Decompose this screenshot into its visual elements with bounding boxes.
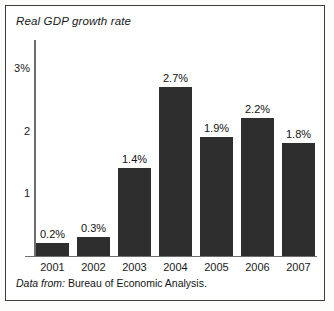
bar-2003[interactable]: [118, 168, 151, 256]
bar-2005[interactable]: [200, 137, 233, 256]
bar-2002[interactable]: [77, 237, 110, 256]
bar-2006[interactable]: [241, 118, 274, 256]
bar-value-label-2007: 1.8%: [275, 128, 323, 140]
bar-2007[interactable]: [282, 143, 315, 256]
y-tick-label: 3%: [0, 62, 30, 74]
source-note-body: Bureau of Economic Analysis.: [65, 277, 207, 289]
bar-2004[interactable]: [159, 87, 192, 256]
y-tick-label: 1: [0, 187, 30, 199]
bar-value-label-2005: 1.9%: [193, 122, 241, 134]
bar-2001[interactable]: [36, 243, 69, 256]
bar-value-label-2004: 2.7%: [152, 72, 200, 84]
bar-value-label-2003: 1.4%: [111, 153, 159, 165]
y-tick-label: 2: [0, 125, 30, 137]
y-axis-line: [34, 40, 36, 257]
source-note-prefix: Data from:: [16, 277, 65, 289]
figure-panel: Real GDP growth rate 123%0.2%20010.3%200…: [0, 0, 334, 311]
bar-value-label-2006: 2.2%: [234, 103, 282, 115]
plot-area: 123%0.2%20010.3%20021.4%20032.7%20041.9%…: [0, 0, 334, 311]
bar-value-label-2002: 0.3%: [70, 222, 118, 234]
x-tick-label-2007: 2007: [275, 261, 323, 273]
source-note: Data from: Bureau of Economic Analysis.: [16, 277, 207, 289]
